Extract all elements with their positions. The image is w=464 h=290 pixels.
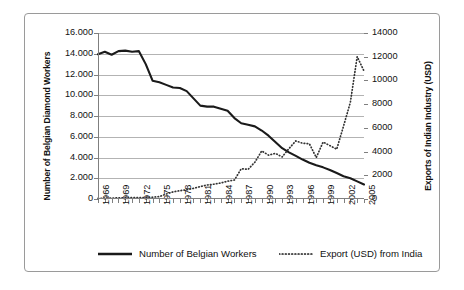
x-axis-tick-mark <box>132 199 133 203</box>
chart-container: Number of Belgian Diamond Workers Export… <box>0 0 464 290</box>
y-axis-right-title: Exports of Indian Industry (USD) <box>423 43 433 209</box>
y-axis-left-tick-label: 6.000 <box>70 132 93 141</box>
x-axis-tick-mark <box>275 199 276 203</box>
y-axis-right-tick-label: 2000 <box>372 170 392 179</box>
plot-area: 16.00014.00012.00010.0008.0006.0004.0002… <box>98 33 364 199</box>
x-axis-tick-label: 2005 <box>368 185 377 205</box>
y-axis-right-tick-mark <box>364 175 368 176</box>
y-axis-right-tick-mark <box>364 104 368 105</box>
y-axis-left-tick-label: 0 <box>88 194 93 203</box>
y-axis-right-tick-label: 12000 <box>372 52 398 61</box>
y-axis-left-tick-label: 10.000 <box>65 90 93 99</box>
x-axis-tick-mark <box>255 199 256 203</box>
y-axis-right-tick-label: 8000 <box>372 99 392 108</box>
legend-solid-line-icon <box>98 249 132 259</box>
y-axis-right-tick-mark <box>364 57 368 58</box>
x-axis-tick-mark <box>139 199 140 203</box>
x-axis-tick-mark <box>262 199 263 203</box>
y-axis-right-tick-mark <box>364 128 368 129</box>
x-axis-tick-mark <box>118 199 119 203</box>
series-lines <box>98 33 364 199</box>
x-axis-tick-mark <box>159 199 160 203</box>
x-axis-tick-mark <box>316 199 317 203</box>
y-axis-right-tick-mark <box>364 152 368 153</box>
x-axis-tick-mark <box>193 199 194 203</box>
x-axis-tick-mark <box>221 199 222 203</box>
legend-item[interactable]: Export (USD) from India <box>279 248 422 259</box>
y-axis-left-tick-label: 14.000 <box>65 49 93 58</box>
y-axis-left-tick-label: 16.000 <box>65 28 93 37</box>
y-axis-left-tick-label: 12.000 <box>65 70 93 79</box>
chart-frame: Number of Belgian Diamond Workers Export… <box>24 13 440 272</box>
x-axis-tick-mark <box>180 199 181 203</box>
y-axis-right-tick-label: 10000 <box>372 75 398 84</box>
y-axis-left-title: Number of Belgian Diamond Workers <box>42 43 52 209</box>
legend-item[interactable]: Number of Belgian Workers <box>98 248 257 259</box>
y-axis-right-tick-label: 6000 <box>372 123 392 132</box>
x-axis-tick-mark <box>98 199 99 203</box>
y-axis-right-tick-label: 14000 <box>372 28 398 37</box>
series-line <box>98 57 364 199</box>
x-axis-tick-mark <box>357 199 358 203</box>
legend-label: Number of Belgian Workers <box>139 248 257 259</box>
legend-dotted-line-icon <box>279 249 313 259</box>
x-axis-tick-mark <box>303 199 304 203</box>
y-axis-right-tick-label: 4000 <box>372 147 392 156</box>
x-axis-tick-mark <box>282 199 283 203</box>
y-axis-right-tick-mark <box>364 33 368 34</box>
legend-label: Export (USD) from India <box>320 248 422 259</box>
x-axis-tick-mark <box>234 199 235 203</box>
x-axis-tick-mark <box>173 199 174 203</box>
y-axis-left-tick-label: 4.000 <box>70 153 93 162</box>
x-axis-tick-mark <box>344 199 345 203</box>
y-axis-right-tick-mark <box>364 80 368 81</box>
x-axis-tick-mark <box>200 199 201 203</box>
x-axis-tick-mark <box>214 199 215 203</box>
x-axis-tick-mark <box>296 199 297 203</box>
x-axis-tick-mark <box>241 199 242 203</box>
y-axis-left-tick-label: 2.000 <box>70 173 93 182</box>
x-axis-tick-mark <box>153 199 154 203</box>
series-line <box>98 51 364 185</box>
y-axis-left-tick-label: 8.000 <box>70 111 93 120</box>
x-axis-tick-mark <box>364 199 365 203</box>
x-axis-tick-mark <box>337 199 338 203</box>
x-axis-tick-mark <box>112 199 113 203</box>
chart-legend: Number of Belgian WorkersExport (USD) fr… <box>98 248 428 264</box>
x-axis-tick-mark <box>323 199 324 203</box>
